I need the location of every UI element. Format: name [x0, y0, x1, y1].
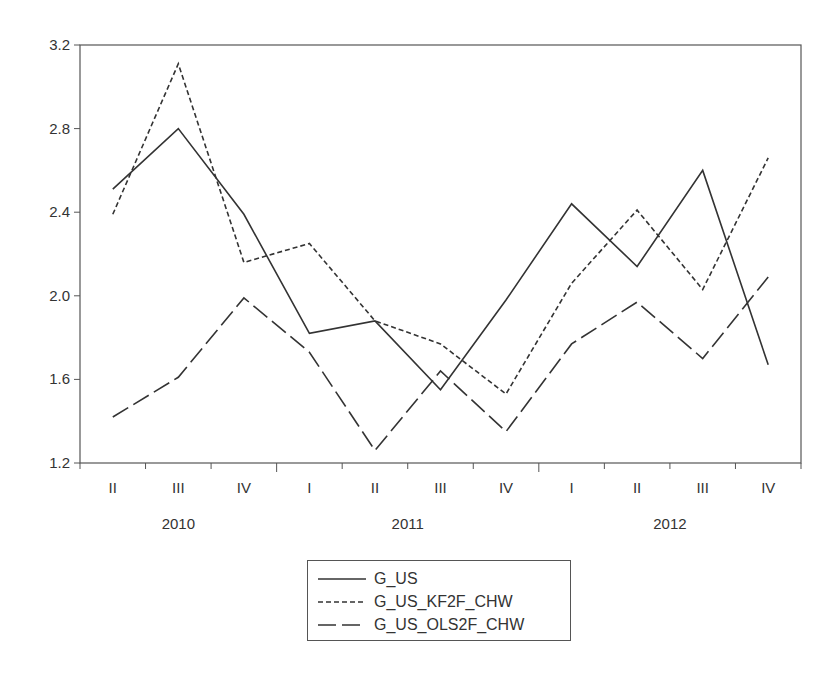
y-tick-label: 2.0	[49, 287, 70, 304]
x-quarter-label: II	[633, 479, 641, 496]
y-tick-label: 2.4	[49, 203, 70, 220]
legend-item-g-us: G_US	[318, 567, 570, 590]
short-dash-line-icon	[318, 597, 366, 607]
y-tick-label: 2.8	[49, 120, 70, 137]
x-quarter-label: II	[109, 479, 117, 496]
solid-line-icon	[318, 574, 366, 584]
legend-item-g-us-ols2f-chw: G_US_OLS2F_CHW	[318, 613, 570, 636]
series-g-us	[113, 129, 768, 390]
x-quarter-label: III	[696, 479, 709, 496]
legend-item-g-us-kf2f-chw: G_US_KF2F_CHW	[318, 590, 570, 613]
legend-label: G_US_OLS2F_CHW	[374, 616, 524, 634]
y-tick-label: 1.6	[49, 370, 70, 387]
x-year-label: 2011	[392, 515, 424, 532]
x-quarter-label: IV	[237, 479, 251, 496]
y-tick-label: 3.2	[49, 36, 70, 53]
x-year-label: 2010	[162, 515, 195, 532]
y-tick-label: 1.2	[49, 454, 70, 471]
series-lines	[113, 64, 768, 451]
legend-label: G_US_KF2F_CHW	[374, 593, 513, 611]
long-dash-line-icon	[318, 620, 366, 630]
y-axis: 1.21.62.02.42.83.2	[49, 36, 80, 471]
x-quarter-label: II	[371, 479, 379, 496]
plot-frame	[80, 45, 801, 463]
x-year-label: 2012	[653, 515, 686, 532]
legend-label: G_US	[374, 570, 418, 588]
x-quarter-label: IV	[761, 479, 775, 496]
x-quarter-label: I	[570, 479, 574, 496]
x-quarter-label: III	[172, 479, 185, 496]
x-quarter-label: IV	[499, 479, 513, 496]
x-quarter-label: III	[434, 479, 447, 496]
series-g-us-ols2f-chw	[113, 277, 768, 451]
x-quarter-label: I	[307, 479, 311, 496]
legend: G_US G_US_KF2F_CHW G_US_OLS2F_CHW	[307, 560, 571, 641]
series-g-us-kf2f-chw	[113, 64, 768, 394]
x-axis: IIIIIIVIIIIIIIVIIIIIIIV201020112012	[80, 463, 801, 532]
